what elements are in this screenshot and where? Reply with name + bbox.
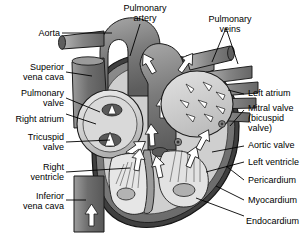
label-pulmonary-veins: Pulmonary veins	[199, 14, 261, 34]
label-right-ventricle: Right ventricle	[2, 162, 64, 182]
label-mitral-valve: Mitral valve (bicuspid valve)	[248, 103, 308, 133]
label-left-ventricle: Left ventricle	[248, 157, 308, 167]
label-right-atrium: Right atrium	[0, 114, 64, 124]
label-endocardium: Endocardium	[246, 216, 308, 226]
pulmonary-valve-cusps	[102, 104, 122, 116]
label-pericardium: Pericardium	[248, 175, 308, 185]
mitral-valve	[174, 138, 181, 145]
label-myocardium: Myocardium	[248, 195, 308, 205]
left-atrium	[161, 71, 233, 137]
label-inferior-vena-cava: Inferior vena cava	[2, 191, 64, 211]
inferior-vena-cava	[74, 176, 104, 232]
label-superior-vena-cava: Superior vena cava	[2, 62, 64, 82]
heart-diagram-figure: Aorta Superior vena cava Pulmonary valve…	[0, 0, 308, 241]
label-tricuspid-valve: Tricuspid valve	[2, 132, 64, 152]
label-aorta: Aorta	[6, 28, 60, 38]
label-aortic-valve: Aortic valve	[248, 140, 308, 150]
label-left-atrium: Left atrium	[248, 88, 308, 98]
label-pulmonary-artery: Pulmonary artery	[113, 3, 177, 23]
label-pulmonary-valve: Pulmonary valve	[2, 88, 64, 108]
